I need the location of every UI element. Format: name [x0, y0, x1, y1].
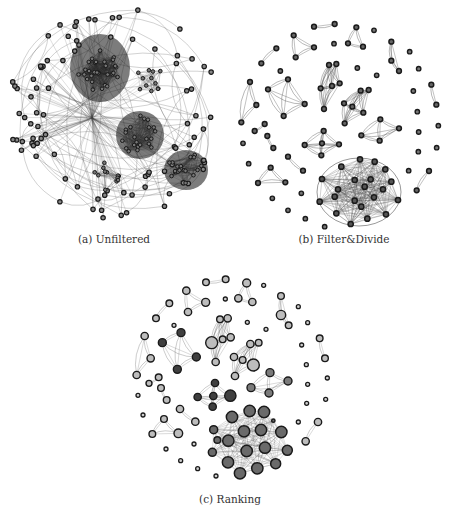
graph-node: [58, 200, 62, 204]
graph-node: [29, 95, 33, 99]
graph-node: [434, 102, 439, 107]
graph-node: [271, 146, 276, 151]
graph-node: [247, 384, 255, 392]
graph-node: [116, 178, 120, 182]
graph-node: [34, 154, 38, 158]
graph-node: [200, 164, 204, 168]
graph-node: [429, 82, 434, 87]
graph-node: [192, 135, 196, 139]
graph-node: [272, 419, 275, 422]
graph-node: [244, 405, 255, 416]
graph-node: [168, 161, 172, 165]
graph-node: [63, 177, 67, 181]
graph-node: [299, 191, 303, 195]
graph-node: [106, 73, 110, 77]
graph-node: [317, 199, 322, 204]
graph-node: [172, 323, 176, 327]
graph-node: [136, 148, 140, 152]
graph-node: [259, 442, 270, 453]
panel-ranking: [110, 260, 350, 490]
graph-node: [196, 168, 200, 172]
graph-node: [179, 164, 183, 168]
graph-node: [210, 392, 217, 399]
graph-node: [355, 66, 359, 70]
graph-node: [332, 41, 336, 45]
graph-node: [154, 82, 158, 86]
graph-node: [208, 448, 216, 456]
graph-node: [254, 103, 259, 108]
graph-node: [61, 58, 65, 62]
graph-node: [43, 132, 47, 136]
graph-node: [283, 180, 288, 185]
graph-node: [87, 60, 91, 64]
graph-node: [111, 58, 115, 62]
graph-node: [225, 390, 236, 401]
graph-node: [187, 143, 191, 147]
graph-node: [39, 136, 43, 140]
graph-node: [414, 188, 419, 193]
graph-node: [170, 174, 174, 178]
graph-node: [144, 84, 148, 88]
graph-node: [234, 468, 245, 479]
graph-node: [305, 401, 309, 405]
graph-node: [268, 165, 273, 170]
graph-node: [239, 120, 244, 125]
graph-node: [146, 118, 150, 122]
graph-node: [117, 15, 121, 19]
graph-node: [158, 339, 166, 347]
graph-node: [296, 305, 300, 309]
graph-node: [137, 71, 141, 75]
graph-node: [179, 459, 183, 463]
graph-node: [352, 198, 357, 203]
graph-node: [150, 89, 154, 93]
graph-node: [219, 336, 226, 343]
graph-node: [262, 283, 266, 287]
graph-node: [147, 126, 151, 130]
graph-node: [103, 161, 107, 165]
graph-node: [85, 77, 89, 81]
graph-node: [300, 343, 304, 347]
graph-node: [46, 34, 50, 38]
graph-node: [194, 113, 198, 117]
graph-node: [22, 115, 26, 119]
graph-node: [332, 194, 337, 199]
graph-node: [91, 88, 95, 92]
graph-node: [314, 418, 321, 425]
graph-node: [19, 148, 23, 152]
graph-node: [395, 197, 400, 202]
graph-node: [94, 60, 98, 64]
graph-node: [153, 129, 157, 133]
graph-node: [84, 68, 88, 72]
graph-node: [306, 321, 310, 325]
graph-node: [101, 216, 105, 220]
graph-node: [36, 124, 40, 128]
graph-node: [150, 76, 154, 80]
graph-node: [164, 447, 168, 451]
graph-node: [17, 111, 21, 115]
graph-node: [406, 168, 410, 172]
graph-node: [192, 353, 200, 361]
graph-node: [90, 74, 94, 78]
graph-node: [109, 35, 113, 39]
graph-node: [415, 109, 419, 113]
graph-node: [77, 73, 81, 77]
graph-node: [211, 379, 218, 386]
graph-node: [380, 187, 385, 192]
graph-node: [185, 121, 189, 125]
graph-node: [189, 87, 193, 91]
graph-node: [210, 426, 218, 434]
graph-node: [66, 34, 70, 38]
graph-node: [38, 64, 42, 68]
graph-node: [334, 62, 339, 67]
graph-node: [357, 157, 362, 162]
graph-node: [184, 169, 188, 173]
graph-node: [153, 47, 157, 51]
graph-node: [337, 142, 342, 147]
graph-node: [416, 130, 420, 134]
graph-node: [113, 64, 117, 68]
graph-node: [93, 170, 97, 174]
graph-node: [371, 195, 376, 200]
graph-node: [201, 127, 205, 131]
graph-node: [258, 406, 269, 417]
graph-node: [130, 193, 134, 197]
